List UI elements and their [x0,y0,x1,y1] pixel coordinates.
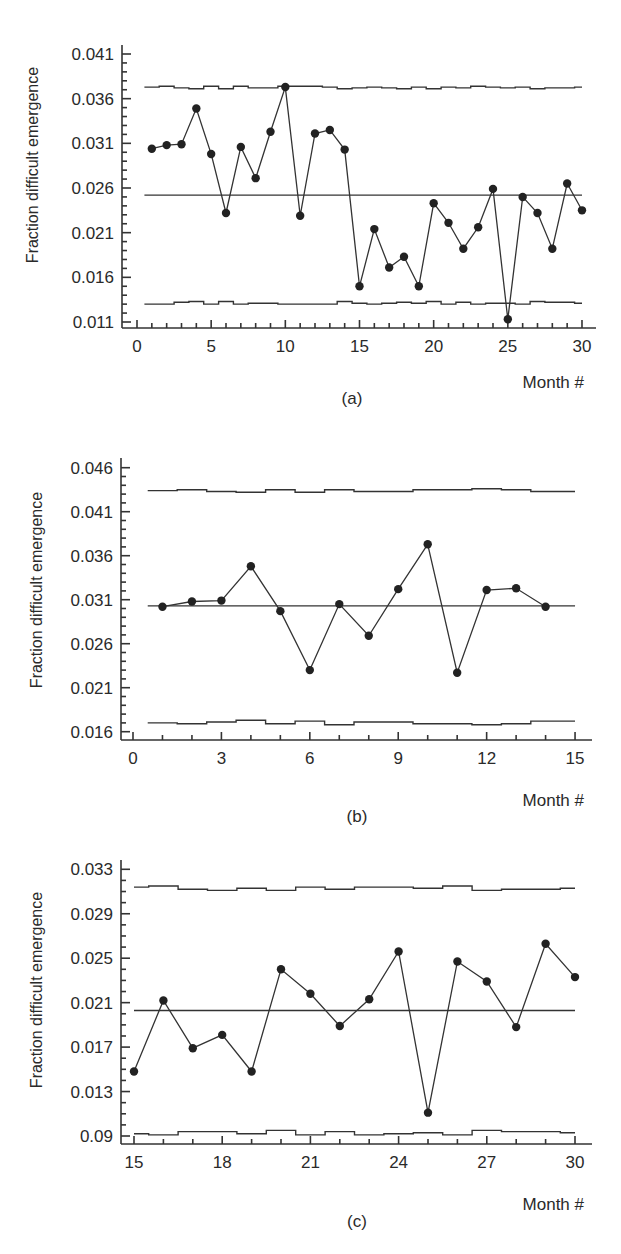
upper-control-limit [134,886,575,890]
data-point-marker [277,965,285,973]
data-point-marker [429,199,437,207]
x-tick-label: 30 [566,1153,585,1172]
data-point-marker [177,140,185,148]
y-tick-label: 0.016 [70,723,113,742]
data-point-marker [415,282,423,290]
x-tick-label: 0 [128,749,137,768]
data-point-marker [276,607,284,615]
data-point-marker [340,145,348,153]
y-tick-label: 0.033 [70,860,113,879]
y-tick-label: 0.046 [70,459,113,478]
data-point-marker [188,597,196,605]
upper-control-limit [144,86,582,89]
x-axis-title: Month # [523,373,585,392]
x-tick-label: 15 [125,1153,144,1172]
data-point-marker [336,1022,344,1030]
chart-caption: (c) [347,1212,367,1231]
data-point-marker [306,666,314,674]
chart-c: 0.0330.0290.0250.0210.0170.0130.09151821… [28,860,592,1231]
x-axis-title: Month # [523,791,585,810]
data-point-marker [335,600,343,608]
data-point-marker [237,143,245,151]
data-point-marker [266,128,274,136]
lower-control-limit [144,302,582,305]
data-point-marker [365,632,373,640]
chart-b: 0.0460.0410.0360.0310.0260.0210.01603691… [28,458,592,826]
x-tick-label: 0 [132,337,141,356]
data-point-marker [489,185,497,193]
y-tick-label: 0.041 [71,45,114,64]
data-point-marker [130,1067,138,1075]
x-tick-label: 20 [424,337,443,356]
data-point-marker [504,315,512,323]
data-point-marker [385,263,393,271]
data-point-marker [459,245,467,253]
data-point-marker [159,996,167,1004]
y-tick-label: 0.025 [70,949,113,968]
data-point-marker [326,126,334,134]
x-tick-label: 15 [566,749,585,768]
data-point-marker [394,585,402,593]
data-point-marker [370,225,378,233]
y-axis-title: Fraction difficult emergence [28,492,45,688]
data-point-marker [306,990,314,998]
data-point-marker [512,1023,520,1031]
lower-control-limit [148,720,575,724]
y-tick-label: 0.026 [71,179,114,198]
x-tick-label: 30 [573,337,592,356]
data-point-marker [453,957,461,965]
data-point-marker [281,83,289,91]
data-point-marker [355,282,363,290]
y-tick-label: 0.026 [70,635,113,654]
y-tick-label: 0.021 [70,679,113,698]
data-point-marker [189,1044,197,1052]
x-tick-label: 18 [213,1153,232,1172]
data-point-marker [207,150,215,158]
data-point-marker [533,209,541,217]
data-point-marker [192,104,200,112]
data-line [163,544,546,672]
data-point-marker [251,174,259,182]
data-point-marker [217,596,225,604]
data-point-marker [247,1067,255,1075]
data-point-marker [218,1031,226,1039]
upper-control-limit [148,489,575,493]
data-point-marker [474,223,482,231]
chart-a: 0.0410.0360.0310.0260.0210.0160.01105101… [24,45,596,408]
chart-caption: (b) [347,807,368,826]
y-tick-label: 0.016 [71,268,114,287]
data-point-marker [162,141,170,149]
x-tick-label: 6 [305,749,314,768]
data-point-marker [424,1108,432,1116]
x-tick-label: 15 [350,337,369,356]
x-tick-label: 9 [393,749,402,768]
data-point-marker [453,669,461,677]
x-tick-label: 10 [276,337,295,356]
y-tick-label: 0.031 [70,591,113,610]
data-point-marker [394,947,402,955]
data-point-marker [365,995,373,1003]
x-tick-label: 5 [206,337,215,356]
data-point-marker [578,206,586,214]
y-tick-label: 0.036 [71,90,114,109]
data-point-marker [296,211,304,219]
data-point-marker [541,940,549,948]
data-line [152,87,582,319]
y-tick-label: 0.021 [71,224,114,243]
x-tick-label: 25 [498,337,517,356]
y-tick-label: 0.036 [70,547,113,566]
data-point-marker [482,586,490,594]
y-tick-label: 0.017 [70,1038,113,1057]
y-tick-label: 0.041 [70,503,113,522]
x-tick-label: 27 [477,1153,496,1172]
control-chart-figure: 0.0410.0360.0310.0260.0210.0160.01105101… [0,0,621,1254]
x-tick-label: 24 [389,1153,408,1172]
lower-control-limit [134,1130,575,1135]
x-tick-label: 12 [477,749,496,768]
data-point-marker [518,193,526,201]
chart-caption: (a) [342,389,363,408]
y-tick-label: 0.011 [73,313,114,332]
data-point-marker [400,253,408,261]
y-axis-title: Fraction difficult emergence [24,67,41,263]
data-point-marker [483,977,491,985]
